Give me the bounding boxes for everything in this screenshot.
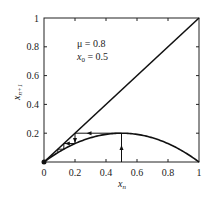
y-axis-label: xn+1 <box>11 84 24 101</box>
x-tick-label: 0.2 <box>69 167 82 178</box>
x-tick-label: 0.8 <box>162 167 175 178</box>
x-axis-label: xn <box>117 178 126 191</box>
y-tick-label: 0.2 <box>27 128 40 139</box>
y-tick-label: 1 <box>34 13 39 24</box>
arrow-up-icon <box>120 145 124 150</box>
y-tick-label: 0.6 <box>27 70 40 81</box>
x-tick-label: 0.4 <box>100 167 113 178</box>
arrow-left-icon <box>87 131 92 135</box>
x-tick-label: 0 <box>42 167 47 178</box>
x-tick-label: 0.6 <box>131 167 144 178</box>
fixed-point-marker <box>42 160 47 165</box>
y-tick-label: 0.4 <box>27 99 40 110</box>
cobweb-chart: 00.20.40.60.810.20.40.60.81μ = 0.8x0 = 0… <box>0 0 214 198</box>
mu-annotation: μ = 0.8 <box>77 38 106 49</box>
x0-annotation: x0 = 0.5 <box>76 51 108 64</box>
y-tick-label: 0.8 <box>27 41 40 52</box>
x-tick-label: 1 <box>197 167 202 178</box>
